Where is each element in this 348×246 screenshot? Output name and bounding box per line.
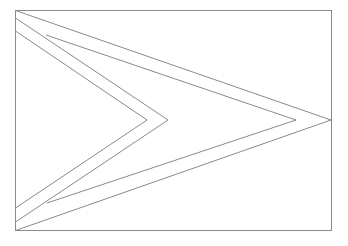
red-chevron-inner <box>16 31 148 208</box>
white-border-chevron <box>16 18 169 222</box>
inner-triangle <box>46 35 296 203</box>
flag-outline-drawing <box>0 0 348 246</box>
